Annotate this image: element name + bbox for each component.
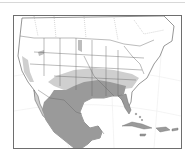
puerto-rico	[172, 128, 178, 131]
top-divider	[0, 2, 185, 3]
jamaica	[140, 134, 146, 136]
range-peripheral-plains	[78, 40, 82, 52]
hispaniola	[156, 127, 170, 132]
caribbean-islands	[122, 113, 178, 136]
range-map	[14, 16, 181, 148]
cuba	[122, 122, 152, 129]
map-frame	[13, 15, 182, 149]
